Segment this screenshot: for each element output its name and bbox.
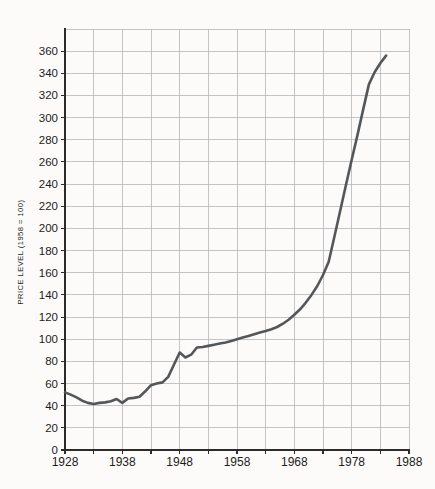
y-tick-label: 180 [39,245,58,257]
y-tick-label: 300 [39,112,58,124]
y-tick-label: 280 [39,134,58,146]
y-tick-label: 200 [39,222,58,234]
y-tick-label: 220 [39,200,58,212]
y-tick-label: 80 [45,355,58,367]
axis-layer [61,28,410,454]
y-tick-label: 240 [39,178,58,190]
x-tick-label: 1988 [396,455,423,469]
x-tick-label: 1968 [281,455,308,469]
y-tick-label: 260 [39,156,58,168]
y-tick-label: 40 [45,400,58,412]
y-tick-label: 360 [39,45,58,57]
y-tick-label: 320 [39,89,58,101]
chart-page: 0204060801001201401601802002202402602803… [0,0,435,489]
y-tick-label: 100 [39,333,58,345]
x-tick-label: 1928 [52,455,79,469]
x-tick-label: 1978 [338,455,365,469]
price-level-chart: 0204060801001201401601802002202402602803… [0,0,435,489]
price-level-line [65,56,386,404]
y-tick-label: 340 [39,67,58,79]
x-tick-label: 1948 [166,455,193,469]
grid-layer [65,29,409,450]
y-tick-label: 60 [45,378,58,390]
x-tick-label: 1938 [109,455,136,469]
y-tick-label: 20 [45,422,58,434]
y-tick-label: 120 [39,311,58,323]
x-tick-label: 1958 [224,455,251,469]
series-layer [65,56,386,404]
y-tick-label: 160 [39,267,58,279]
y-tick-label: 140 [39,289,58,301]
y-axis-title: PRICE LEVEL (1958 = 100) [16,200,25,305]
